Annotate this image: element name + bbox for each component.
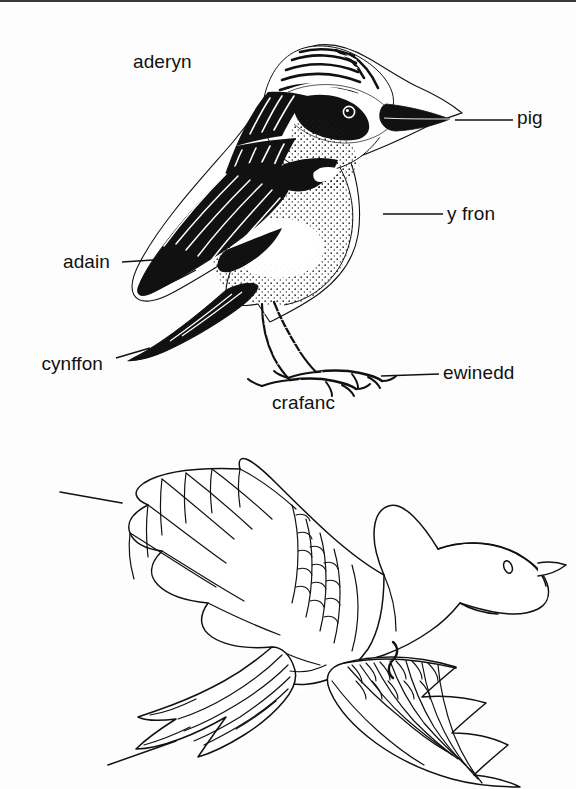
label-adain-perched: adain [63, 251, 110, 273]
figure-perched-bird: aderyn pig y fron adain cynffon ewinedd … [0, 0, 576, 430]
label-ewinedd: ewinedd [443, 362, 514, 384]
label-pig: pig [517, 107, 543, 129]
claw-front-1 [382, 376, 396, 381]
label-aderyn: aderyn [133, 51, 192, 73]
label-y-fron: y fron [447, 203, 495, 225]
beak [538, 562, 566, 576]
upper-wing [129, 458, 384, 684]
leader-ewinedd [381, 374, 439, 376]
diagram-page: aderyn pig y fron adain cynffon ewinedd … [0, 0, 576, 789]
leader-pluen [60, 492, 122, 503]
upper-wing-outline [129, 458, 384, 684]
claw-hind-near [248, 379, 262, 386]
flying-bird-drawing [60, 458, 566, 787]
lower-wing [327, 657, 520, 787]
eye [343, 106, 354, 117]
eye-highlight [346, 109, 349, 112]
label-crafanc: crafanc [272, 392, 335, 414]
figure-flying-bird: pluen adain cynffon [0, 415, 576, 789]
tail [136, 647, 296, 757]
label-cynffon-perched: cynffon [41, 353, 103, 375]
